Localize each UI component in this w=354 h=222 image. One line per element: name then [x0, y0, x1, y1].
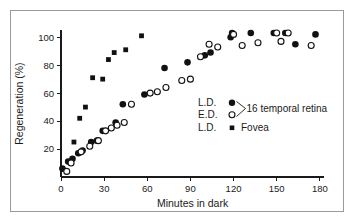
data-point [285, 30, 291, 36]
axes-group: 204060801000306090120150180Minutes in da… [13, 30, 328, 209]
legend-row2-prefix: E.D. [198, 109, 217, 120]
legend-row3-prefix: L.D. [198, 122, 216, 133]
data-point [83, 105, 88, 110]
data-point [161, 65, 168, 72]
y-tick-label-60: 60 [43, 88, 54, 99]
data-point [247, 30, 254, 37]
data-point [77, 116, 82, 121]
data-point [106, 57, 111, 62]
legend-row3-label: Fovea [241, 122, 269, 133]
y-tick-label-20: 20 [43, 143, 54, 154]
legend-filled-square-icon [230, 126, 235, 131]
scatter-plot: 204060801000306090120150180Minutes in da… [0, 0, 354, 222]
x-tick-label-60: 60 [142, 183, 153, 194]
data-point [90, 75, 95, 80]
y-axis-title: Regeneration (%) [13, 62, 25, 144]
data-point [147, 90, 153, 96]
data-point [128, 101, 134, 107]
legend-row1-prefix: L.D. [198, 97, 216, 108]
data-point [121, 119, 127, 125]
data-point [184, 59, 191, 66]
legend-group-bracket-icon [237, 102, 246, 117]
data-point [141, 91, 148, 98]
data-point [278, 38, 284, 44]
y-tick-label-100: 100 [38, 32, 54, 43]
data-point [87, 143, 93, 149]
data-point [154, 89, 160, 95]
x-tick-label-30: 30 [99, 183, 110, 194]
data-point [64, 168, 70, 174]
figure-container: 204060801000306090120150180Minutes in da… [0, 0, 354, 222]
data-point [120, 101, 127, 108]
y-tick-label-40: 40 [43, 115, 54, 126]
data-point [95, 138, 101, 144]
x-tick-label-90: 90 [185, 183, 196, 194]
x-tick-label-0: 0 [58, 183, 63, 194]
data-point [187, 76, 193, 82]
legend-filled-circle-icon [229, 100, 235, 106]
data-point [274, 30, 280, 36]
data-point [68, 160, 74, 166]
data-point [255, 40, 261, 46]
data-point [239, 43, 245, 49]
data-point [114, 122, 120, 128]
chart-legend: L.D.E.D.L.D.16 temporal retinaFovea [198, 97, 328, 133]
data-point [78, 149, 84, 155]
data-point [112, 50, 117, 55]
data-point [197, 54, 203, 60]
data-point [72, 140, 77, 145]
data-point [163, 85, 169, 91]
x-tick-label-150: 150 [269, 183, 285, 194]
data-point [312, 31, 319, 38]
data-point [207, 49, 214, 56]
data-point [139, 33, 144, 38]
series-0-filled-circle [59, 30, 319, 172]
data-point [206, 41, 212, 47]
x-tick-label-180: 180 [312, 183, 328, 194]
data-point [215, 44, 221, 50]
y-tick-label-80: 80 [43, 60, 54, 71]
x-tick-label-120: 120 [226, 183, 242, 194]
data-point [231, 31, 237, 37]
data-point [123, 47, 128, 52]
legend-group-label: 16 temporal retina [247, 103, 328, 114]
data-point [292, 41, 299, 48]
data-point [100, 77, 105, 82]
x-axis-title: Minutes in dark [157, 197, 229, 209]
data-point [103, 128, 109, 134]
data-point [308, 43, 314, 49]
series-2-filled-square [72, 33, 144, 144]
data-point [108, 125, 114, 131]
legend-open-circle-icon [229, 112, 235, 118]
data-point [179, 78, 185, 84]
